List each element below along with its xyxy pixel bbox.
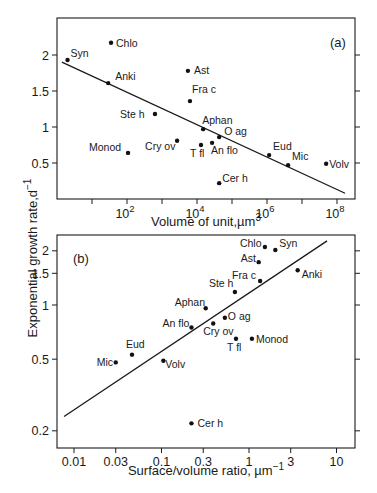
point-label: Syn — [279, 237, 297, 249]
point-label: Eud — [126, 338, 145, 350]
y-tick-label: 1 — [42, 121, 49, 135]
point-marker — [106, 81, 110, 85]
data-point: O ag — [217, 125, 247, 139]
panel-b-points: ChloSynAstAnkiFra cSte hAphanO agCry ovA… — [97, 237, 322, 429]
panel-b-tag: (b) — [73, 251, 89, 266]
data-point: O ag — [223, 310, 251, 322]
point-label: Chlo — [240, 237, 262, 249]
data-point: Fra c — [188, 83, 216, 103]
point-marker — [233, 290, 237, 294]
point-label: Monod — [89, 141, 121, 153]
point-label: Anki — [115, 70, 135, 82]
y-tick-label: 0.5 — [32, 157, 49, 171]
point-label: An flo — [211, 144, 238, 156]
data-point: T fl — [190, 143, 204, 159]
data-point: Monod — [89, 141, 130, 155]
y-tick-label: 1 — [42, 299, 49, 313]
data-point: Chlo — [109, 37, 138, 49]
data-point: Fra c — [232, 269, 262, 283]
point-marker — [295, 268, 299, 272]
figure: Exponential growth rate,d−1 102104106108… — [0, 0, 377, 493]
data-point: Ste h — [209, 277, 237, 294]
point-label: Cry ov — [145, 140, 176, 152]
y-tick-label: 1.5 — [32, 267, 49, 281]
panel-b-regression-line — [64, 241, 327, 417]
point-marker — [65, 58, 69, 62]
point-marker — [217, 181, 221, 185]
data-point: Cer h — [189, 417, 223, 429]
point-label: Ast — [241, 252, 256, 264]
y-tick-label: 0.2 — [32, 424, 49, 438]
point-label: Aphan — [175, 296, 206, 308]
point-marker — [201, 127, 205, 131]
point-marker — [267, 153, 271, 157]
point-label: Cry ov — [203, 325, 234, 337]
point-label: Fra c — [232, 269, 256, 281]
point-marker — [324, 162, 328, 166]
figure-canvas: Exponential growth rate,d−1 102104106108… — [0, 0, 377, 493]
point-marker — [153, 112, 157, 116]
y-tick-label: 2 — [42, 244, 49, 258]
point-label: T fl — [227, 341, 241, 353]
point-label: Eud — [273, 140, 292, 152]
point-label: O ag — [224, 125, 247, 137]
point-marker — [217, 135, 221, 139]
point-label: Anki — [302, 268, 322, 280]
x-tick-label: 10 — [330, 455, 344, 469]
data-point: Cer h — [217, 172, 248, 185]
x-tick-label: 0.03 — [104, 455, 128, 469]
point-marker — [130, 352, 134, 356]
x-tick-label: 102 — [115, 203, 134, 221]
data-point: Eud — [126, 338, 145, 357]
panel-a-volume-vs-growth: 102104106108 0.511.52 SynChloAnkiSte hMo… — [32, 18, 360, 229]
point-label: Mic — [292, 150, 308, 162]
point-marker — [114, 360, 118, 364]
point-label: Cer h — [222, 172, 248, 184]
data-point: Anki — [295, 268, 322, 280]
data-point: Syn — [65, 47, 88, 62]
data-point: Ste h — [120, 108, 157, 120]
y-tick-label: 0.5 — [32, 353, 49, 367]
data-point: Cry ov — [145, 138, 179, 151]
data-point: Eud — [267, 140, 292, 157]
point-marker — [273, 248, 277, 252]
data-point: Volv — [161, 358, 186, 370]
point-label: Mic — [97, 356, 113, 368]
data-point: Ast — [241, 252, 261, 264]
y-tick-label: 1.5 — [32, 85, 49, 99]
point-marker — [263, 245, 267, 249]
y-tick-label: 2 — [42, 49, 49, 63]
point-marker — [188, 99, 192, 103]
point-label: O ag — [228, 310, 251, 322]
point-marker — [109, 41, 113, 45]
data-point: Mic — [97, 356, 118, 368]
panel-b-frame — [57, 235, 355, 448]
data-point: Anki — [106, 70, 136, 85]
data-point: Ast — [186, 64, 209, 76]
point-label: T fl — [190, 147, 204, 159]
x-tick-label: 3 — [287, 455, 294, 469]
panel-a-frame — [57, 18, 355, 199]
point-marker — [223, 316, 227, 320]
point-marker — [175, 138, 179, 142]
point-label: Volv — [165, 358, 186, 370]
panel-b-x-axis-title: Surface/volume ratio, µm−1 — [128, 461, 285, 478]
point-marker — [258, 279, 262, 283]
data-point: Chlo — [240, 237, 267, 249]
point-marker — [286, 163, 290, 167]
point-marker — [189, 325, 193, 329]
y-axis-title: Exponential growth rate,d−1 — [22, 178, 40, 337]
x-tick-label: 108 — [325, 203, 344, 221]
point-label: Syn — [71, 47, 89, 59]
point-marker — [186, 69, 190, 73]
panel-a-points: SynChloAnkiSte hMonodCry ovAstFra cAphan… — [65, 37, 349, 186]
panel-b-sv-ratio-vs-growth: 0.010.030.10.31310 0.20.511.52 ChloSynAs… — [32, 235, 360, 478]
point-marker — [189, 421, 193, 425]
point-marker — [256, 260, 260, 264]
data-point: Monod — [250, 333, 288, 345]
point-marker — [250, 336, 254, 340]
point-label: Fra c — [192, 83, 216, 95]
x-tick-label: 0.01 — [62, 455, 86, 469]
point-label: Monod — [256, 333, 288, 345]
point-label: Ste h — [120, 108, 145, 120]
